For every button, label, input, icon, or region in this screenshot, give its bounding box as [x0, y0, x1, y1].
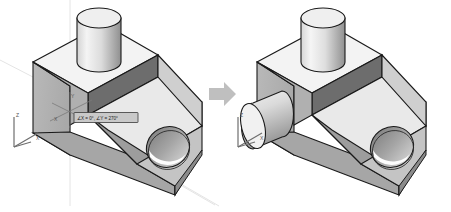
cad-illustration-stage: Y X ∠X = 0°, ∠Y = 270° Z X — [0, 0, 451, 212]
part-after[interactable]: Z X — [236, 8, 426, 195]
scene-canvas: Y X ∠X = 0°, ∠Y = 270° Z X — [0, 0, 451, 212]
after-cylinder-top-face — [301, 8, 345, 28]
transition-arrow — [209, 82, 236, 106]
triad-y-axis — [14, 142, 31, 147]
triad-z-label: Z — [16, 112, 19, 118]
before-vertical-cylinder[interactable] — [77, 8, 121, 72]
before-cylinder-top-face — [77, 8, 121, 28]
after-triad-z-label: Z — [240, 112, 243, 118]
part-before[interactable]: Y X ∠X = 0°, ∠Y = 270° Z X — [14, 8, 202, 195]
after-vertical-cylinder[interactable] — [301, 8, 345, 72]
triad-x-axis — [14, 133, 38, 147]
transition-arrow-shape — [209, 82, 236, 106]
rotation-tooltip-label: ∠X = 0°, ∠Y = 270° — [77, 116, 118, 121]
rotation-tooltip[interactable]: ∠X = 0°, ∠Y = 270° — [74, 113, 138, 123]
